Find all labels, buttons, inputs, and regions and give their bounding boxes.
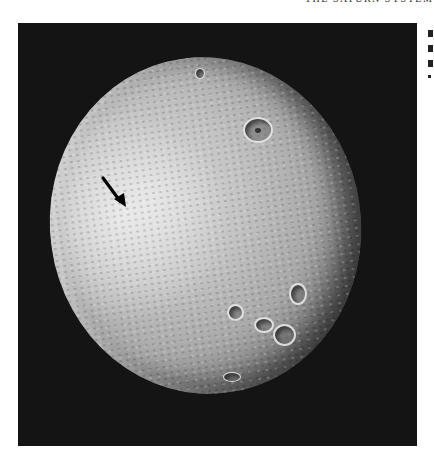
arrow-annotation-icon [100,175,130,209]
adjacent-column-text-fragments [428,30,434,86]
crater-south-rim [223,372,241,382]
text-fragment [428,45,433,52]
surface-texture [28,37,383,414]
crater-southeast-1 [289,283,307,305]
text-fragment [428,60,433,67]
text-fragment [428,30,433,37]
running-head: THE SATURN SYSTEM [305,0,433,4]
moon-disk [28,37,383,414]
crater-southeast-2 [227,304,244,321]
crater-southeast-3 [254,317,274,333]
large-crater-north [243,117,273,143]
small-crater-top [195,68,205,79]
moon-photograph [18,23,417,446]
text-fragment [428,75,431,78]
crater-southeast-4 [273,324,296,346]
